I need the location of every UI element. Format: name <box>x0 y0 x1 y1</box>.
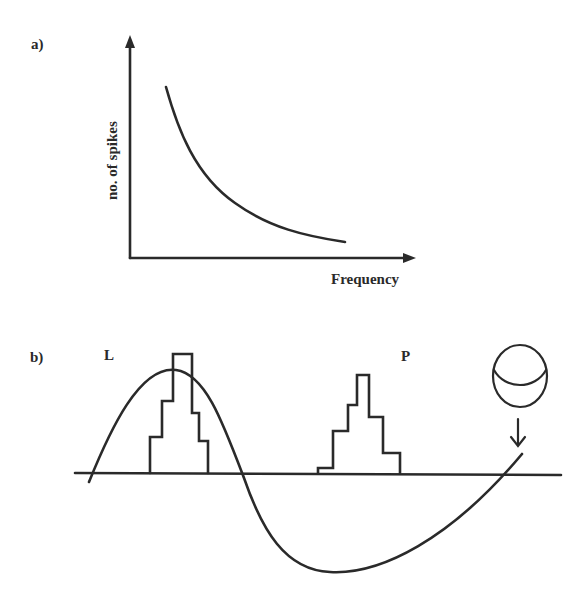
sine-wave <box>89 370 522 572</box>
panel-a-axes <box>125 35 416 263</box>
eye-icon <box>493 345 547 407</box>
x-axis-arrowhead-icon <box>403 253 416 263</box>
spike-frequency-curve <box>166 87 345 242</box>
histogram-p <box>318 375 400 473</box>
diagram-canvas <box>0 0 582 604</box>
down-arrow-icon <box>511 419 525 446</box>
y-axis-arrowhead-icon <box>125 35 135 48</box>
